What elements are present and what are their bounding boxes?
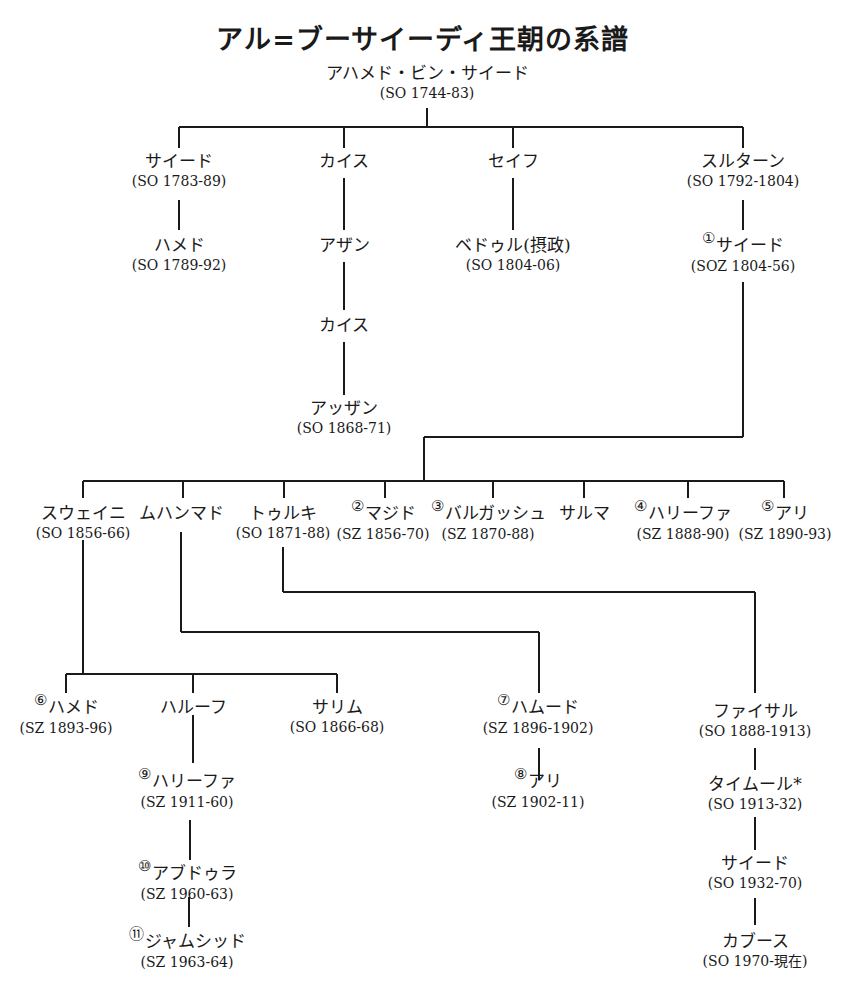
person-sultan: スルターン (SO 1792-1804) xyxy=(687,150,799,190)
person-majid: ②マジド (SZ 1856-70) xyxy=(337,502,430,543)
person-seif: セイフ xyxy=(488,150,539,172)
ruler-number-badge: ⑥ xyxy=(34,691,47,709)
person-azzan: アザン xyxy=(319,234,370,256)
ruler-number-badge: ⑩ xyxy=(138,857,151,875)
person-thuwaini: スウェイニ (SO 1856-66) xyxy=(36,502,131,542)
ruler-number-badge: ④ xyxy=(634,497,647,515)
person-salma: サルマ xyxy=(559,502,610,524)
person-taimur: タイムール* (SO 1913-32) xyxy=(708,773,803,813)
ruler-number-badge: ⑧ xyxy=(514,765,527,783)
person-jamshid: ⑪ジャムシッド (SZ 1963-64) xyxy=(129,930,246,971)
person-ahmad-bin-said: アハメド・ビン・サイード (SO 1744-83) xyxy=(326,62,529,102)
ruler-number-badge: ⑨ xyxy=(138,765,151,783)
person-muhammad: ムハンマド xyxy=(139,502,224,524)
person-bedr-regent: ベドゥル(摂政) (SO 1804-06) xyxy=(455,234,570,274)
person-qais-2: カイス xyxy=(319,314,369,336)
person-turki: トゥルキ (SO 1871-88) xyxy=(236,502,331,542)
person-khalifa: ④ハリーファ (SZ 1888-90) xyxy=(634,502,732,543)
person-said-bin-sultan: ①サイード (SOZ 1804-56) xyxy=(691,234,795,275)
person-qais: カイス xyxy=(319,150,369,172)
person-ali: ⑤アリ (SZ 1890-93) xyxy=(739,502,832,543)
person-azzan-2: アッザン (SO 1868-71) xyxy=(297,397,392,437)
person-khalifa-bin-harub: ⑨ハリーファ (SZ 1911-60) xyxy=(138,770,236,811)
person-abdulla: ⑩アブドゥラ (SZ 1960-63) xyxy=(138,862,237,903)
person-barghash: ③バルガッシュ (SZ 1870-88) xyxy=(431,502,546,543)
ruler-number-badge: ⑤ xyxy=(761,497,774,515)
person-ali-bin-hamud: ⑧アリ (SZ 1902-11) xyxy=(492,770,585,811)
person-hamed-bin-thuwaini: ⑥ハメド (SZ 1893-96) xyxy=(20,696,113,737)
person-hamed: ハメド (SO 1789-92) xyxy=(132,234,227,274)
ruler-number-badge: ③ xyxy=(431,497,444,515)
person-said-bin-taimur: サイード (SO 1932-70) xyxy=(708,852,803,892)
ruler-number-badge: ⑦ xyxy=(497,691,510,709)
person-hamud: ⑦ハムード (SZ 1896-1902) xyxy=(483,696,594,737)
person-harub: ハルーフ xyxy=(160,696,227,718)
person-salim: サリム (SO 1866-68) xyxy=(290,696,385,736)
ruler-number-badge: ② xyxy=(351,497,364,515)
ruler-number-badge: ⑪ xyxy=(129,925,144,943)
person-said: サイード (SO 1783-89) xyxy=(132,150,227,190)
person-qaboos: カブース (SO 1970-現在) xyxy=(703,930,808,970)
person-faisal: ファイサル (SO 1888-1913) xyxy=(699,700,811,740)
ruler-number-badge: ① xyxy=(702,229,715,247)
